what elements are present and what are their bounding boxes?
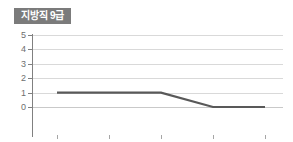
gridline-0 xyxy=(32,107,283,108)
y-tick-label-4: 4 xyxy=(6,45,26,54)
y-tick-5 xyxy=(28,35,32,36)
gridline-3 xyxy=(32,64,283,65)
y-tick-2 xyxy=(28,78,32,79)
gridline-4 xyxy=(32,49,283,50)
x-tick-label-2019: 2019 xyxy=(89,140,129,142)
y-axis-labels: 5 4 3 2 1 0 xyxy=(0,35,26,107)
chart-screenshot: 지방직 9급 5 4 3 2 1 0 xyxy=(0,0,293,142)
y-tick-label-2: 2 xyxy=(6,74,26,83)
gridline-5 xyxy=(32,35,283,36)
line-chart: 5 4 3 2 1 0 2018 2019 2020 2021 2022 xyxy=(0,28,293,142)
x-tick-label-2018: 2018 xyxy=(37,140,77,142)
chart-title-badge: 지방직 9급 xyxy=(14,8,71,24)
x-tick-label-2021: 2021 xyxy=(193,140,233,142)
y-tick-1 xyxy=(28,93,32,94)
gridline-1 xyxy=(32,93,283,94)
y-tick-4 xyxy=(28,49,32,50)
y-tick-label-3: 3 xyxy=(6,60,26,69)
y-axis-line xyxy=(32,34,33,137)
y-tick-0 xyxy=(28,107,32,108)
y-tick-label-5: 5 xyxy=(6,31,26,40)
y-tick-label-0: 0 xyxy=(6,103,26,112)
gridline-2 xyxy=(32,78,283,79)
x-tick-label-2020: 2020 xyxy=(141,140,181,142)
y-tick-label-1: 1 xyxy=(6,89,26,98)
plot-area xyxy=(32,35,283,107)
x-tick-label-2022: 2022 xyxy=(245,140,285,142)
y-tick-3 xyxy=(28,64,32,65)
